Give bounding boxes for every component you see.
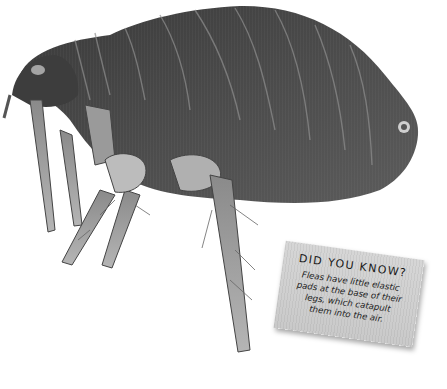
flea-illustration-scene: DID YOU KNOW? Fleas have little elastic … xyxy=(0,0,447,389)
